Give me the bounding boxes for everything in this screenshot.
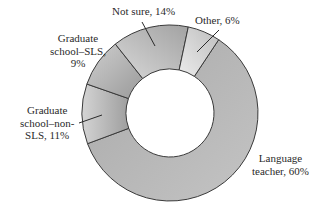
label-line: school–SLS,	[50, 45, 106, 58]
label-line: Graduate	[20, 104, 74, 117]
label-line: teacher, 60%	[252, 165, 309, 178]
label-graduate-non-sls: Graduate school–non- SLS, 11%	[20, 104, 74, 142]
label-line: SLS, 11%	[20, 129, 74, 142]
label-graduate-sls: Graduate school–SLS, 9%	[50, 32, 106, 70]
label-line: Graduate	[50, 32, 106, 45]
label-line: school–non-	[20, 117, 74, 130]
donut-segments	[82, 25, 258, 201]
label-line: Language	[252, 152, 309, 165]
label-language-teacher: Language teacher, 60%	[252, 152, 309, 177]
label-not-sure: Not sure, 14%	[112, 5, 175, 18]
label-other: Other, 6%	[195, 14, 240, 27]
label-line: 9%	[50, 57, 106, 70]
label-line: Other, 6%	[195, 14, 240, 27]
label-line: Not sure, 14%	[112, 5, 175, 18]
